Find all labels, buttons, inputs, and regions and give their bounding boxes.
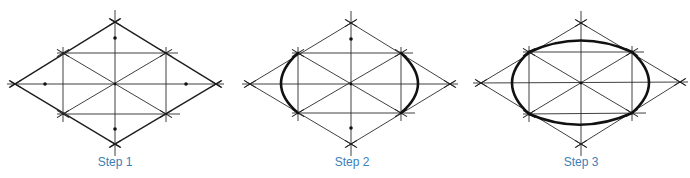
midpoint-dot <box>113 127 117 131</box>
right-arc <box>401 53 418 113</box>
step-3-label: Step 3 <box>541 155 621 169</box>
midpoint-dot <box>349 37 353 41</box>
midpoint-dot <box>184 82 188 86</box>
isometric-ellipse-diagram: Step 1 Step 2 Step 3 <box>0 0 690 178</box>
midpoint-dot <box>43 82 47 86</box>
top-arc <box>529 41 632 53</box>
center-dot <box>350 83 353 86</box>
bottom-arc <box>529 113 632 125</box>
center-dot <box>580 82 583 85</box>
step-2-panel <box>242 11 458 156</box>
midpoint-dot <box>349 126 353 130</box>
step-1-label: Step 1 <box>75 155 155 169</box>
midpoint-dot <box>113 36 117 40</box>
diagram-canvas <box>0 0 690 178</box>
step-1-panel <box>7 10 224 156</box>
center-dot <box>114 83 117 86</box>
step-2-label: Step 2 <box>312 155 392 169</box>
step-3-panel <box>473 11 688 156</box>
